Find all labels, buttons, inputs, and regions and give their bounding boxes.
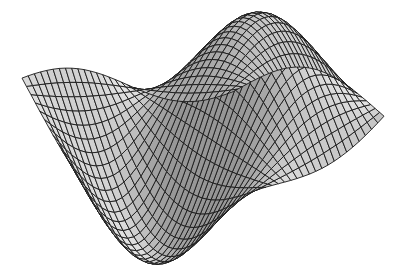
surface-mesh (22, 12, 384, 264)
figure-canvas: Hatched wireframe mesh of a wave-shaped … (0, 0, 399, 274)
wireframe-surface-plot (0, 0, 399, 274)
